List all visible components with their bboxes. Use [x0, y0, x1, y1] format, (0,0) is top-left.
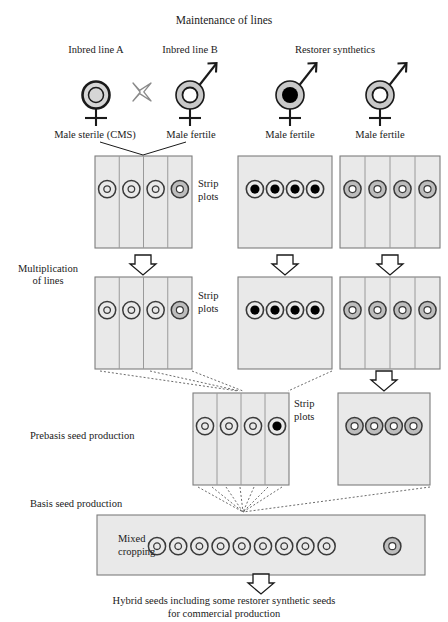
plot-circle-restorer-ring	[344, 181, 361, 198]
plot-circle-restorer-ring	[394, 302, 411, 319]
strip-plot	[95, 156, 192, 248]
plot-circle-restorer-ring	[385, 418, 402, 435]
plot-circle-restorer-ring	[369, 181, 386, 198]
arrow-prebasis-r	[371, 371, 397, 391]
basis-circle-restorer	[384, 538, 401, 555]
mixed-cropping-label: Mixed cropping	[118, 533, 155, 558]
arrow-mult-r2	[377, 255, 403, 275]
symbol-fertile	[366, 81, 394, 109]
parent-header-inbred-a: Inbred line A	[68, 44, 123, 56]
plot-circle-restorer-ring	[171, 302, 188, 319]
strip-plots-label-line2: plots	[198, 191, 218, 204]
parent-caption-inbred-a: Male sterile (CMS)	[54, 129, 136, 141]
strip-plot	[193, 393, 289, 485]
strip-plot	[238, 277, 332, 369]
arrow-mult-a	[130, 255, 156, 275]
stage-label-prebasis: Prebasis seed production	[30, 430, 134, 442]
strip-plot	[340, 156, 440, 248]
parent-symbol-inbred-b	[176, 63, 217, 126]
plot-circle-restorer-ring	[346, 418, 363, 435]
strip-plot	[338, 393, 430, 485]
connector-dotted	[192, 371, 243, 391]
strip-plots-label-line2: plots	[198, 303, 218, 316]
strip-plot	[95, 277, 192, 369]
strip-plots-label-line1: Strip	[294, 398, 314, 411]
plot-circle-restorer-ring	[419, 302, 436, 319]
stage-label-basis: Basis seed production	[30, 498, 122, 510]
parent-symbol-restorer-2	[366, 63, 407, 126]
symbol-cms	[83, 82, 110, 109]
strip-plot	[340, 277, 440, 369]
parent-header-inbred-b: Inbred line B	[162, 44, 217, 56]
plot-circle-restorer-ring	[369, 302, 386, 319]
strip-plots-label-line1: Strip	[198, 290, 218, 303]
plot-circle-restorer-ring	[405, 418, 422, 435]
mixed-cropping-line1: Mixed	[118, 533, 155, 546]
connector-dotted	[150, 371, 240, 391]
stage-label-multiplication-line2: of lines	[18, 275, 78, 287]
mixed-cropping-line2: cropping	[118, 546, 155, 559]
connector-dotted	[243, 487, 430, 512]
strip-plots-label: Stripplots	[198, 178, 218, 203]
connector-dotted	[198, 487, 243, 512]
plot-layer	[95, 156, 440, 575]
connector-dotted	[212, 487, 243, 512]
strip-plots-label: Stripplots	[294, 398, 314, 423]
plot-circle-restorer-ring	[366, 418, 383, 435]
parent-symbol-inbred-a	[83, 82, 110, 127]
parent-caption-restorer-2: Male fertile	[355, 129, 404, 141]
connector-dotted	[288, 371, 332, 391]
parent-symbol-restorer-1	[276, 63, 317, 126]
connector-line	[100, 142, 186, 155]
connector-dotted	[243, 487, 254, 512]
connector-dotted	[243, 487, 268, 512]
connector-dotted	[100, 371, 238, 391]
parent-symbol-layer	[83, 63, 407, 126]
strip-plots-label-line1: Strip	[198, 178, 218, 191]
plot-circle-restorer-ring	[419, 181, 436, 198]
cross-x	[133, 83, 151, 101]
arrow-final	[248, 574, 274, 594]
arrow-mult-r1	[272, 255, 298, 275]
parent-caption-inbred-b: Male fertile	[166, 129, 215, 141]
strip-plot	[238, 156, 332, 248]
pedigree-diagram	[0, 0, 448, 622]
strip-plots-label-line2: plots	[294, 411, 314, 424]
footer-caption: Hybrid seeds including some restorer syn…	[113, 595, 336, 620]
connector-dotted	[226, 487, 243, 512]
parent-header-restorer-synthetics: Restorer synthetics	[295, 44, 375, 56]
symbol-restorer-black	[276, 81, 304, 109]
page-title: Maintenance of lines	[176, 14, 272, 27]
symbol-fertile	[176, 81, 204, 109]
footer-line2: for commercial production	[113, 608, 336, 621]
plot-circle-restorer-ring	[394, 181, 411, 198]
stage-label-multiplication: Multiplication of lines	[18, 263, 78, 287]
strip-plots-label: Stripplots	[198, 290, 218, 315]
footer-line1: Hybrid seeds including some restorer syn…	[113, 595, 336, 608]
plot-circle-restorer-ring	[344, 302, 361, 319]
plot-circle-restorer-ring	[171, 181, 188, 198]
stage-label-multiplication-line1: Multiplication	[18, 263, 78, 275]
parent-caption-restorer-1: Male fertile	[265, 129, 314, 141]
